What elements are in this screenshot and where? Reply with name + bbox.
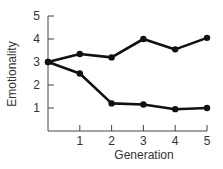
data-point [204, 105, 210, 111]
chart-canvas: 1234512345 Emotionality Generation [0, 0, 223, 169]
y-tick-label: 5 [33, 9, 40, 23]
data-point [204, 35, 210, 41]
x-tick-label: 2 [108, 134, 115, 148]
series-group [45, 35, 210, 113]
y-axis-label: Emotionality [5, 41, 19, 106]
x-tick-label: 1 [76, 134, 83, 148]
line-chart: 1234512345 Emotionality Generation [0, 0, 223, 169]
data-point [172, 46, 178, 52]
data-point [108, 100, 114, 106]
y-tick-label: 1 [33, 101, 40, 115]
x-tick-label: 4 [172, 134, 179, 148]
x-axis-label: Generation [114, 148, 173, 162]
series-line-1 [48, 38, 207, 62]
y-tick-label: 4 [33, 32, 40, 46]
data-point [77, 70, 83, 76]
series-line-2 [48, 62, 207, 109]
axes: 1234512345 [33, 9, 210, 148]
x-tick-label: 3 [140, 134, 147, 148]
data-point [77, 51, 83, 57]
y-tick-label: 3 [33, 55, 40, 69]
data-point [108, 54, 114, 60]
x-tick-label: 5 [204, 134, 211, 148]
data-point [172, 106, 178, 112]
y-tick-label: 2 [33, 78, 40, 92]
data-point [140, 36, 146, 42]
data-point [45, 59, 51, 65]
data-point [140, 101, 146, 107]
